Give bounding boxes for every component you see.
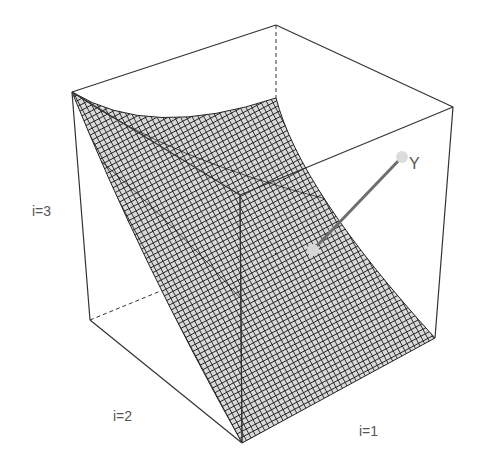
axis-label-i2: i=2 (113, 408, 132, 424)
axis-label-i1: i=1 (359, 423, 378, 439)
vector-end-point (396, 151, 408, 163)
surface-plot-3d (0, 0, 482, 471)
vector-label-y: Y (409, 155, 420, 173)
axis-label-i3: i=3 (32, 203, 51, 219)
mesh-surface (72, 92, 435, 443)
vector-start-point (307, 244, 319, 256)
